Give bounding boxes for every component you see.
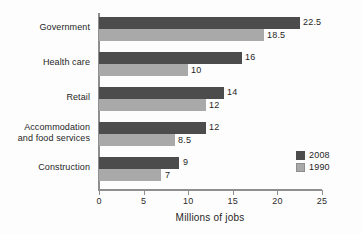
x-tick-15: [233, 190, 234, 195]
category-label-construction: Construction: [38, 162, 90, 173]
legend-label-2008: 2008: [309, 150, 330, 160]
bar-health-care-1990: [99, 64, 188, 76]
x-axis-title: Millions of jobs: [0, 212, 362, 223]
legend-swatch-2008-icon: [296, 151, 305, 160]
x-tick-10: [188, 190, 189, 195]
x-tick-5: [144, 190, 145, 195]
x-tick-25: [322, 190, 323, 195]
legend-item-2008: 2008: [296, 150, 330, 160]
x-tick-label-15: 15: [228, 196, 238, 206]
bar-health-care-2008: [99, 52, 242, 64]
bar-value-retail-2008: 14: [227, 87, 237, 97]
category-label-accommodation-and-food-services: Accommodation and food services: [18, 122, 90, 143]
bar-value-government-1990: 18.5: [267, 30, 285, 40]
x-tick-label-5: 5: [141, 196, 146, 206]
x-tick-label-10: 10: [183, 196, 193, 206]
legend-swatch-1990-icon: [296, 163, 305, 172]
bar-chart: 0 5 10 15 20 25 Millions of jobs Governm…: [0, 0, 362, 234]
legend: 2008 1990: [296, 150, 330, 174]
bar-government-2008: [99, 17, 300, 29]
x-tick-label-25: 25: [317, 196, 327, 206]
category-label-health-care: Health care: [43, 57, 90, 68]
x-tick-0: [99, 190, 100, 195]
bar-value-health-care-1990: 10: [191, 65, 201, 75]
bar-value-health-care-2008: 16: [245, 52, 255, 62]
bar-accommodation-and-food-services-1990: [99, 134, 175, 146]
legend-item-1990: 1990: [296, 162, 330, 172]
category-label-retail: Retail: [66, 92, 90, 103]
x-tick-label-0: 0: [96, 196, 101, 206]
x-tick-label-20: 20: [272, 196, 282, 206]
x-axis-line: [98, 189, 322, 191]
bar-accommodation-and-food-services-2008: [99, 122, 206, 134]
bar-value-construction-2008: 9: [183, 157, 188, 167]
bar-construction-1990: [99, 169, 161, 181]
bar-value-government-2008: 22.5: [303, 17, 321, 27]
bar-government-1990: [99, 29, 264, 41]
legend-label-1990: 1990: [309, 162, 330, 172]
category-label-government: Government: [39, 22, 90, 33]
bar-value-construction-1990: 7: [165, 170, 170, 180]
bar-value-accommodation-and-food-services-2008: 12: [209, 122, 219, 132]
bar-retail-1990: [99, 99, 206, 111]
bar-construction-2008: [99, 157, 179, 169]
bar-retail-2008: [99, 87, 224, 99]
x-tick-20: [277, 190, 278, 195]
bar-value-accommodation-and-food-services-1990: 8.5: [178, 135, 191, 145]
bar-value-retail-1990: 12: [209, 100, 219, 110]
x-axis-title-text: Millions of jobs: [176, 212, 245, 223]
